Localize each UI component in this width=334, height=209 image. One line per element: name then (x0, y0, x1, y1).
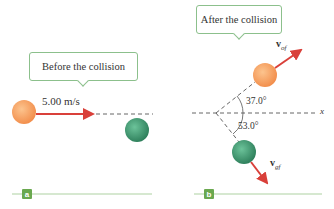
angle-arc-top (237, 96, 243, 113)
after-callout-text: After the collision (201, 14, 277, 25)
green-path-dashed (216, 113, 239, 142)
vector-subscript: of (281, 44, 286, 52)
angle-bottom-label: 53.0° (238, 121, 258, 131)
speed-label: 5.00 m/s (42, 95, 80, 107)
before-diagram (0, 0, 167, 209)
panel-tag-a: a (22, 189, 32, 199)
vel-orange-label: vof (276, 38, 286, 52)
vel-green-label: vgf (270, 157, 280, 171)
x-axis-label: x (320, 106, 324, 116)
green-velocity-arrow (251, 162, 267, 183)
vector-subscript: gf (275, 163, 280, 171)
panel-tag-b: b (204, 189, 214, 199)
after-callout: After the collision (196, 5, 282, 34)
orange-ball (253, 63, 277, 87)
orange-ball (12, 100, 36, 124)
panel-before-collision: Before the collision 5.00 m/s a (0, 0, 167, 209)
orange-velocity-arrow (275, 50, 301, 68)
green-ball (232, 140, 256, 164)
green-ball (125, 118, 149, 142)
angle-top-label: 37.0° (246, 96, 266, 106)
before-callout: Before the collision (29, 52, 138, 81)
panel-after-collision: After the collision vof 37.0° 53.0° x vg… (167, 0, 334, 209)
before-callout-text: Before the collision (42, 61, 125, 72)
